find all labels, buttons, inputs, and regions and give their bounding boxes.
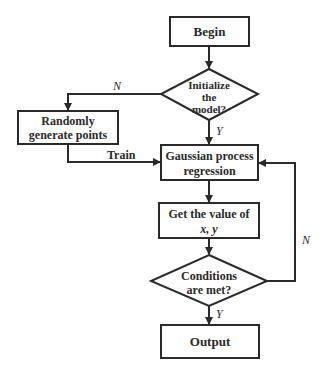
edge-label-init-no: N	[112, 79, 122, 93]
edge-cond-gpr	[259, 163, 295, 281]
edge-init-random	[68, 94, 161, 110]
cond-line-2: are met?	[187, 283, 232, 297]
init-line-2: the	[202, 91, 217, 103]
edge-label-cond-no: N	[301, 233, 311, 247]
random-line-1: Randomly	[41, 114, 94, 128]
begin-label: Begin	[194, 24, 227, 39]
edge-label-train: Train	[107, 148, 136, 162]
init-line-3: model?	[192, 103, 226, 115]
getval-line-1: Get the value of	[169, 207, 251, 221]
output-label: Output	[190, 334, 231, 349]
edge-label-cond-yes: Y	[216, 307, 224, 321]
flowchart: Begin Initialize the model? Randomly gen…	[0, 0, 328, 373]
edge-label-init-yes: Y	[216, 124, 224, 138]
init-line-1: Initialize	[188, 79, 230, 91]
gpr-line-1: Gaussian process	[165, 149, 253, 163]
random-line-2: generate points	[29, 128, 108, 142]
cond-line-1: Conditions	[181, 269, 237, 283]
gpr-line-2: regression	[183, 164, 236, 178]
getval-line-2: x, y	[199, 222, 218, 236]
